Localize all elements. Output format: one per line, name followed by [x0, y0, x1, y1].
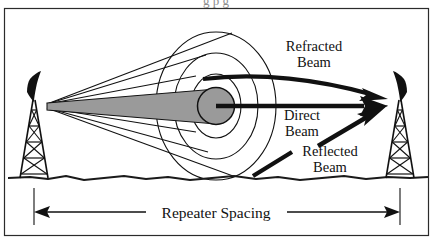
- refracted-beam-label-line1: Refracted: [286, 38, 343, 54]
- repeater-spacing-label: Repeater Spacing: [162, 204, 271, 221]
- refracted-beam-label-line2: Beam: [297, 54, 332, 70]
- clipped-caption-fragment: g p g: [203, 0, 230, 8]
- diagram-canvas: g p g: [0, 0, 433, 242]
- reflected-beam-label-line2: Beam: [313, 159, 348, 175]
- direct-beam-label-line2: Beam: [285, 123, 320, 139]
- reflected-beam-label-line1: Reflected: [302, 143, 358, 159]
- direct-beam-label-line1: Direct: [284, 107, 320, 123]
- microwave-path-diagram: g p g: [0, 0, 433, 242]
